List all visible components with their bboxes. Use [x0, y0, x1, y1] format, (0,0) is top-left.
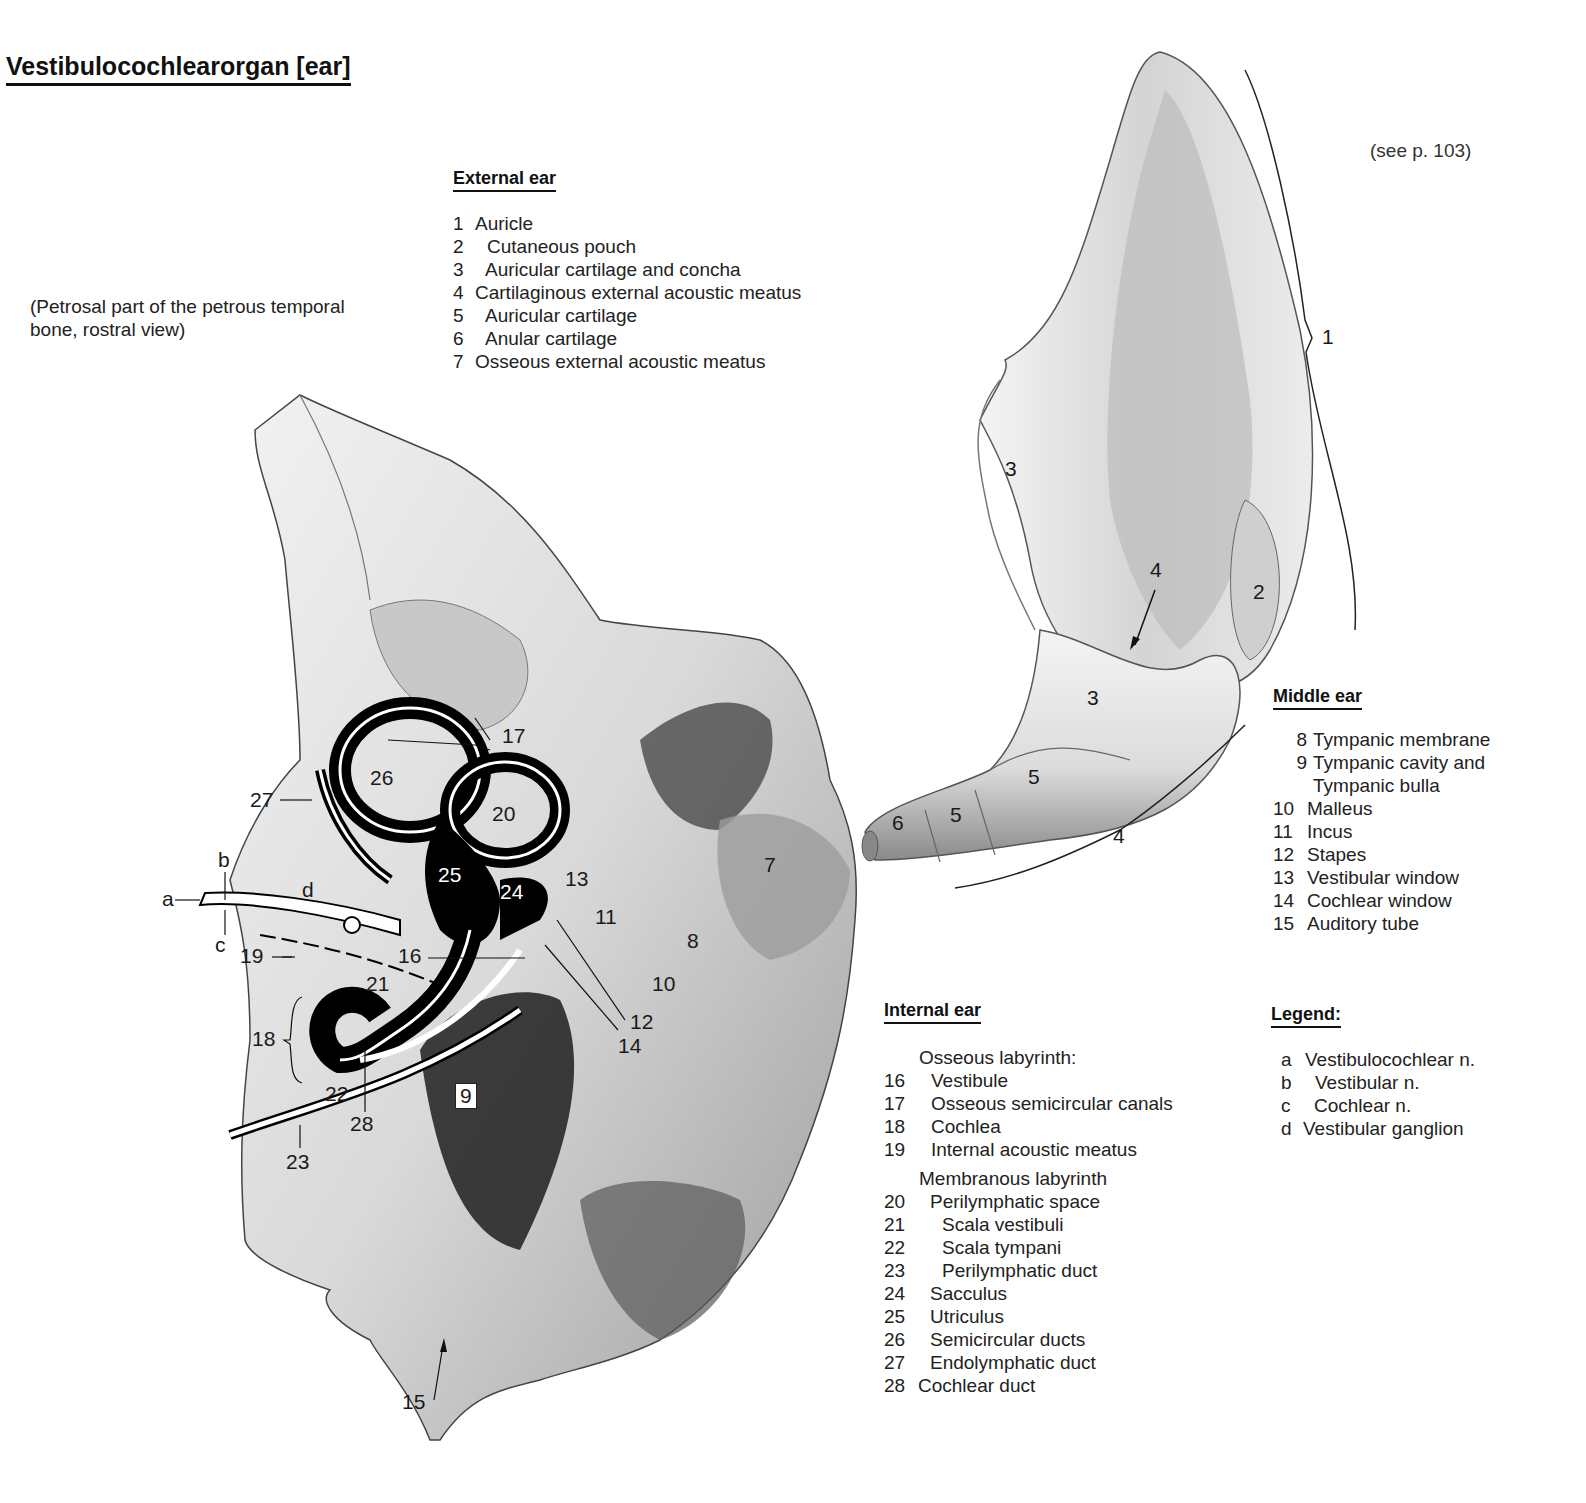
- label-27: 27: [250, 788, 273, 812]
- label-16: 16: [398, 944, 421, 968]
- label-10: 10: [652, 972, 675, 996]
- item-number: 9: [1273, 751, 1313, 774]
- item-label: Vestibule: [931, 1069, 1008, 1092]
- label-c: c: [215, 933, 226, 957]
- item-number: 14: [1273, 889, 1307, 912]
- item-number: 2: [453, 235, 487, 258]
- item-label: Tympanic bulla: [1313, 774, 1440, 797]
- item-number: 8: [1273, 728, 1313, 751]
- item-label: Endolymphatic duct: [930, 1351, 1096, 1374]
- item-label: Auditory tube: [1307, 912, 1419, 935]
- list-item: 16Vestibule: [884, 1069, 1173, 1092]
- legend-label: Vestibular n.: [1315, 1071, 1420, 1094]
- legend-section: Legend: aVestibulocochlear n. bVestibula…: [1271, 1004, 1475, 1140]
- item-number: 13: [1273, 866, 1307, 889]
- label-23: 23: [286, 1150, 309, 1174]
- label-7: 7: [764, 853, 776, 877]
- item-label: Vestibular window: [1307, 866, 1459, 889]
- item-number: 12: [1273, 843, 1307, 866]
- label-25: 25: [438, 863, 461, 887]
- label-18: 18: [252, 1027, 275, 1051]
- list-item: 10Malleus: [1273, 797, 1490, 820]
- list-item: 7Osseous external acoustic meatus: [453, 350, 801, 373]
- item-label: Auricular cartilage and concha: [485, 258, 741, 281]
- item-number: 10: [1273, 797, 1307, 820]
- item-label: Semicircular ducts: [930, 1328, 1085, 1351]
- petrous-bone-drawing: [175, 395, 856, 1440]
- list-item: 3Auricular cartilage and concha: [453, 258, 801, 281]
- middle-ear-section: Middle ear 8Tympanic membrane 9Tympanic …: [1273, 686, 1490, 935]
- item-label: Incus: [1307, 820, 1352, 843]
- label-8: 8: [687, 929, 699, 953]
- legend-key: b: [1281, 1071, 1315, 1094]
- list-item: 11Incus: [1273, 820, 1490, 843]
- label-b: b: [218, 848, 230, 872]
- legend-item: cCochlear n.: [1281, 1094, 1475, 1117]
- legend-item: bVestibular n.: [1281, 1071, 1475, 1094]
- legend-key: a: [1281, 1048, 1305, 1071]
- item-number: 7: [453, 350, 475, 373]
- legend-label: Vestibular ganglion: [1303, 1117, 1464, 1140]
- label-17: 17: [502, 724, 525, 748]
- list-item: 1Auricle: [453, 212, 801, 235]
- item-number: 17: [884, 1092, 931, 1115]
- label-a: a: [162, 887, 174, 911]
- item-label: Malleus: [1307, 797, 1372, 820]
- label-19: 19: [240, 944, 263, 968]
- list-item: 12Stapes: [1273, 843, 1490, 866]
- internal-ear-section: Internal ear Osseous labyrinth: 16Vestib…: [884, 1000, 1173, 1397]
- list-item: Tympanic bulla: [1273, 774, 1490, 797]
- membranous-labyrinth-heading: Membranous labyrinth: [884, 1167, 1173, 1190]
- label-1: 1: [1322, 325, 1334, 349]
- label-21: 21: [366, 972, 389, 996]
- label-15: 15: [402, 1390, 425, 1414]
- label-6: 6: [892, 811, 904, 835]
- external-ear-list: 1Auricle 2Cutaneous pouch 3Auricular car…: [453, 212, 801, 373]
- list-item: 19Internal acoustic meatus: [884, 1138, 1173, 1161]
- item-label: Utriculus: [930, 1305, 1004, 1328]
- list-item: 20Perilymphatic space: [884, 1190, 1173, 1213]
- item-number: 22: [884, 1236, 942, 1259]
- item-label: Cartilaginous external acoustic meatus: [475, 281, 801, 304]
- label-22: 22: [325, 1082, 348, 1106]
- item-number: 25: [884, 1305, 930, 1328]
- item-label: Cochlear window: [1307, 889, 1452, 912]
- item-number: 5: [453, 304, 485, 327]
- list-item: 6Anular cartilage: [453, 327, 801, 350]
- internal-ear-heading: Internal ear: [884, 1000, 981, 1024]
- item-number: 21: [884, 1213, 942, 1236]
- item-number: 27: [884, 1351, 930, 1374]
- item-number: 1: [453, 212, 475, 235]
- list-item: 17Osseous semicircular canals: [884, 1092, 1173, 1115]
- label-12: 12: [630, 1010, 653, 1034]
- label-28: 28: [350, 1112, 373, 1136]
- legend-list: aVestibulocochlear n. bVestibular n. cCo…: [1271, 1048, 1475, 1140]
- internal-ear-list: Osseous labyrinth: 16Vestibule 17Osseous…: [884, 1046, 1173, 1397]
- item-label: Internal acoustic meatus: [931, 1138, 1137, 1161]
- label-5-lower: 5: [950, 803, 962, 827]
- item-number: [1273, 774, 1313, 797]
- item-label: Perilymphatic space: [930, 1190, 1100, 1213]
- item-label: Auricular cartilage: [485, 304, 637, 327]
- item-label: Osseous semicircular canals: [931, 1092, 1173, 1115]
- label-2: 2: [1253, 580, 1265, 604]
- list-item: 5Auricular cartilage: [453, 304, 801, 327]
- item-number: 4: [453, 281, 475, 304]
- legend-label: Cochlear n.: [1314, 1094, 1411, 1117]
- external-ear-section: External ear 1Auricle 2Cutaneous pouch 3…: [453, 168, 801, 373]
- middle-ear-list: 8Tympanic membrane 9Tympanic cavity and …: [1273, 728, 1490, 935]
- label-11: 11: [595, 905, 617, 929]
- item-label: Osseous external acoustic meatus: [475, 350, 765, 373]
- legend-key: d: [1281, 1117, 1303, 1140]
- list-item: 23Perilymphatic duct: [884, 1259, 1173, 1282]
- list-item: 15Auditory tube: [1273, 912, 1490, 935]
- item-label: Tympanic cavity and: [1313, 751, 1485, 774]
- list-item: 22Scala tympani: [884, 1236, 1173, 1259]
- list-item: 28Cochlear duct: [884, 1374, 1173, 1397]
- legend-item: dVestibular ganglion: [1281, 1117, 1475, 1140]
- item-label: Tympanic membrane: [1313, 728, 1490, 751]
- label-26: 26: [370, 766, 393, 790]
- list-item: 2Cutaneous pouch: [453, 235, 801, 258]
- label-d: d: [302, 878, 314, 902]
- label-24: 24: [500, 880, 523, 904]
